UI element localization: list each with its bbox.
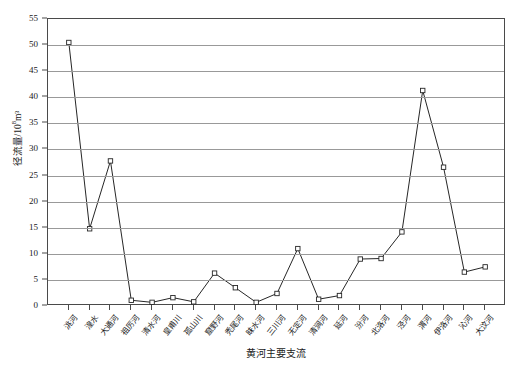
- x-tick-label: 清涧河: [307, 313, 329, 337]
- x-tick-label: 皇甫川: [161, 313, 183, 337]
- x-tick-label: 大通河: [99, 313, 121, 337]
- data-point: [483, 265, 487, 269]
- x-tick-mark: [318, 305, 319, 310]
- y-tick-label: 10: [29, 248, 38, 257]
- x-tick-label: 三川河: [265, 313, 287, 337]
- x-tick-label: 无定河: [286, 313, 308, 337]
- x-tick-label: 沁河: [458, 313, 475, 331]
- x-axis-title: 黄河主要支流: [47, 348, 505, 360]
- gridline: [48, 45, 504, 46]
- data-point: [441, 165, 445, 169]
- data-point: [379, 256, 383, 260]
- data-point: [400, 230, 404, 234]
- data-point: [462, 270, 466, 274]
- y-tick-label: 5: [34, 274, 39, 283]
- x-tick-label: 孤山川: [182, 313, 204, 337]
- gridline: [48, 149, 504, 150]
- x-tick-mark: [484, 305, 485, 310]
- gridline: [48, 280, 504, 281]
- x-tick-label: 昧水河: [244, 313, 266, 337]
- x-tick-label: 祖厉河: [119, 313, 141, 337]
- data-point: [212, 271, 216, 275]
- y-tick-label: 25: [29, 170, 38, 179]
- x-tick-mark: [401, 305, 402, 310]
- gridline: [48, 176, 504, 177]
- data-point: [233, 286, 237, 290]
- x-tick-label: 清水河: [140, 313, 162, 337]
- data-point: [421, 88, 425, 92]
- series-line: [69, 42, 485, 302]
- x-tick-label: 窟野河: [203, 313, 225, 337]
- x-tick-mark: [130, 305, 131, 310]
- y-tick-label: 50: [29, 40, 38, 49]
- y-tick-label: 20: [29, 196, 38, 205]
- x-tick-mark: [151, 305, 152, 310]
- y-tick-label: 15: [29, 222, 38, 231]
- data-point: [296, 246, 300, 250]
- gridline: [48, 228, 504, 229]
- x-tick-mark: [338, 305, 339, 310]
- data-point: [129, 298, 133, 302]
- x-tick-mark: [255, 305, 256, 310]
- y-axis-title-tail: m³: [13, 111, 23, 121]
- x-tick-label: 伊洛河: [432, 313, 454, 337]
- x-tick-label: 泾河: [395, 313, 412, 331]
- y-axis-title-base: 径流量/10: [13, 124, 23, 166]
- plot-area: [47, 18, 505, 305]
- x-tick-mark: [172, 305, 173, 310]
- x-tick-label: 延河: [333, 313, 350, 331]
- x-tick-mark: [214, 305, 215, 310]
- y-axis-title-exponent: 8: [10, 121, 17, 124]
- x-tick-mark: [68, 305, 69, 310]
- x-tick-label: 渭河: [416, 313, 433, 331]
- y-tick-label: 55: [29, 14, 38, 23]
- series-markers: [67, 40, 488, 304]
- x-tick-mark: [443, 305, 444, 310]
- y-tick-label: 35: [29, 118, 38, 127]
- data-point: [275, 291, 279, 295]
- data-point: [171, 295, 175, 299]
- gridline: [48, 71, 504, 72]
- y-axis-title: 径流量/108m³: [8, 89, 23, 189]
- data-point: [108, 159, 112, 163]
- x-tick-mark: [234, 305, 235, 310]
- data-point: [316, 297, 320, 301]
- x-tick-mark: [380, 305, 381, 310]
- gridline: [48, 97, 504, 98]
- data-point: [150, 300, 154, 304]
- x-tick-mark: [297, 305, 298, 310]
- x-tick-label: 大汶河: [473, 313, 495, 337]
- gridline: [48, 202, 504, 203]
- line-chart: 0510152025303540455055 径流量/108m³ 洮河湟水大通河…: [0, 0, 525, 368]
- x-tick-label: 北洛河: [369, 313, 391, 337]
- y-tick-label: 40: [29, 92, 38, 101]
- data-point: [254, 300, 258, 304]
- x-tick-mark: [359, 305, 360, 310]
- x-tick-mark: [89, 305, 90, 310]
- x-tick-label: 洮河: [62, 313, 79, 331]
- x-tick-mark: [422, 305, 423, 310]
- x-tick-label: 湟水: [83, 313, 100, 331]
- data-point: [337, 293, 341, 297]
- y-tick-label: 30: [29, 144, 38, 153]
- data-point: [192, 300, 196, 304]
- x-tick-mark: [109, 305, 110, 310]
- x-tick-mark: [276, 305, 277, 310]
- x-tick-label: 秃尾河: [224, 313, 246, 337]
- x-tick-mark: [193, 305, 194, 310]
- y-tick-label: 0: [34, 301, 39, 310]
- gridline: [48, 123, 504, 124]
- x-tick-label: 汾河: [353, 313, 370, 331]
- x-tick-mark: [463, 305, 464, 310]
- gridline: [48, 254, 504, 255]
- y-tick-label: 45: [29, 66, 38, 75]
- data-point: [358, 257, 362, 261]
- series-runoff: [48, 19, 506, 306]
